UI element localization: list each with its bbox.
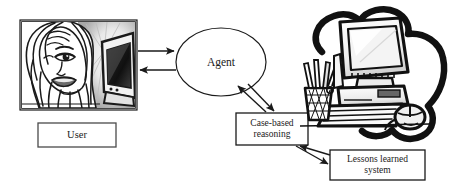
lessons-learned-system-box bbox=[330, 150, 425, 180]
diagram-canvas bbox=[0, 0, 470, 192]
case-based-reasoning-box bbox=[236, 113, 308, 145]
user-box bbox=[38, 123, 116, 147]
user-photo-illustration bbox=[20, 20, 137, 110]
sketch-monitor bbox=[340, 18, 408, 88]
comic-monitor bbox=[102, 33, 135, 106]
photo-content bbox=[22, 21, 135, 108]
computer-illustration bbox=[300, 9, 444, 139]
agent-ellipse bbox=[176, 28, 266, 96]
drive-slot bbox=[378, 90, 400, 97]
cup-contents bbox=[304, 54, 343, 93]
edge-cbr-to-lls bbox=[296, 146, 328, 164]
eye bbox=[55, 53, 75, 61]
